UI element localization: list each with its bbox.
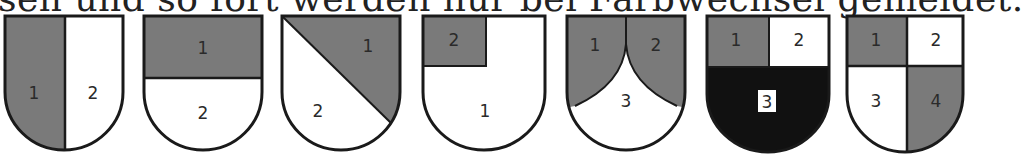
field-label: 1	[363, 36, 374, 56]
field-label: 2	[794, 30, 805, 50]
field-label: 4	[931, 91, 942, 111]
field-label: 3	[762, 92, 773, 112]
shield-quarterly: 1 2 3 4	[845, 14, 965, 154]
field-label: 1	[480, 101, 491, 121]
shield-per-pale: 1 2	[3, 14, 125, 152]
field-label: 2	[313, 101, 324, 121]
field-label: 1	[590, 35, 601, 55]
shield-per-bend: 1 2	[280, 14, 402, 152]
field-label: 1	[198, 38, 209, 58]
field-label: 1	[871, 30, 882, 50]
field-label: 1	[731, 30, 742, 50]
shield-black-base: 1 2 3	[705, 14, 831, 154]
field-label: 1	[29, 83, 40, 103]
shield-chape: 1 2 3	[565, 14, 687, 152]
field-label: 3	[871, 91, 882, 111]
field-label: 2	[198, 103, 209, 123]
field-label: 2	[88, 83, 99, 103]
field-label: 3	[621, 91, 632, 111]
field-label: 2	[449, 30, 460, 50]
field-label: 2	[651, 35, 662, 55]
shield-canton: 2 1	[421, 14, 547, 152]
field-label: 2	[931, 30, 942, 50]
shield-per-fess: 1 2	[142, 14, 264, 152]
